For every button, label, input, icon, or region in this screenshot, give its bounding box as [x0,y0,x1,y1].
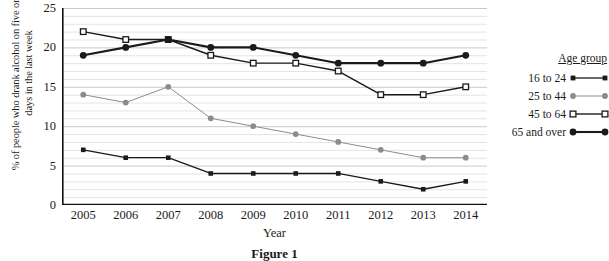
legend-item-label: 16 to 24 [528,72,566,84]
legend-title: Age group [500,52,609,64]
x-tick-label: 2010 [283,208,308,222]
data-point [251,171,256,176]
x-tick-label: 2008 [198,208,223,222]
x-tick-label: 2011 [326,208,351,222]
data-point [208,171,213,176]
y-tick-label: 0 [26,199,56,212]
data-point [292,52,299,59]
y-tick-label: 25 [26,2,56,15]
data-point [123,155,128,160]
legend-item-label: 65 and over [512,126,566,138]
legend-symbol-filled-circle-icon [569,90,609,102]
data-point [335,139,341,145]
y-tick-label: 5 [26,159,56,172]
data-point [165,36,172,43]
series-line [83,87,466,158]
data-point [377,60,384,67]
series-16-to-24 [81,148,468,192]
data-point [378,92,384,98]
data-point [208,115,214,121]
data-point [293,131,299,137]
data-point [250,60,256,66]
legend-symbol-filled-circle-bold-icon [569,126,609,138]
legend-symbol-open-square-icon [569,108,609,120]
legend-symbol-filled-square-icon [569,72,609,84]
data-point [80,29,86,35]
data-point [123,37,129,43]
data-point [122,44,129,51]
x-tick-label: 2012 [368,208,393,222]
legend-item-45-to-64: 45 to 64 [500,105,609,123]
x-tick-label: 2007 [156,208,181,222]
y-axis-tick-labels: 0510152025 [22,8,56,205]
chart-svg [62,8,487,205]
data-point [420,155,426,161]
data-point [335,60,342,67]
data-point [420,60,427,67]
y-tick-label: 10 [26,120,56,133]
data-point [80,92,86,98]
y-tick-label: 15 [26,81,56,94]
data-point [463,84,469,90]
data-point [421,187,426,192]
data-point [80,52,87,59]
data-point [462,52,469,59]
data-point [336,171,341,176]
y-tick-label: 20 [26,41,56,54]
data-point [165,84,171,90]
data-point [293,60,299,66]
x-axis-tick-labels: 2005200620072008200920102011201220132014 [62,208,487,226]
data-point [123,100,129,106]
x-tick-label: 2014 [453,208,478,222]
data-point [293,171,298,176]
plot-area [62,8,487,205]
legend-item-label: 45 to 64 [528,108,566,120]
data-point [207,44,214,51]
series-65-and-over [80,36,469,66]
data-point [250,123,256,129]
data-point [208,52,214,58]
x-tick-label: 2005 [71,208,96,222]
legend-item-label: 25 to 44 [528,90,566,102]
legend-item-65-and-over: 65 and over [500,123,609,141]
legend: Age group 16 to 2425 to 4445 to 6465 and… [500,52,609,141]
x-axis-label: Year [62,226,487,241]
series-group [80,29,469,192]
x-tick-label: 2009 [241,208,266,222]
x-tick-label: 2006 [113,208,138,222]
legend-items: 16 to 2425 to 4445 to 6465 and over [500,69,609,141]
legend-item-16-to-24: 16 to 24 [500,69,609,87]
series-line [83,150,466,189]
legend-item-25-to-44: 25 to 44 [500,87,609,105]
plot-canvas [62,8,487,205]
data-point [378,147,384,153]
series-line [83,40,466,64]
data-point [81,148,86,153]
data-point [335,68,341,74]
figure-container: % of people who drank alcohol on five or… [0,0,609,261]
data-point [420,92,426,98]
data-point [463,179,468,184]
data-point [250,44,257,51]
data-point [166,155,171,160]
data-point [463,155,469,161]
figure-caption: Figure 1 [62,246,487,261]
x-tick-label: 2013 [411,208,436,222]
data-point [378,179,383,184]
